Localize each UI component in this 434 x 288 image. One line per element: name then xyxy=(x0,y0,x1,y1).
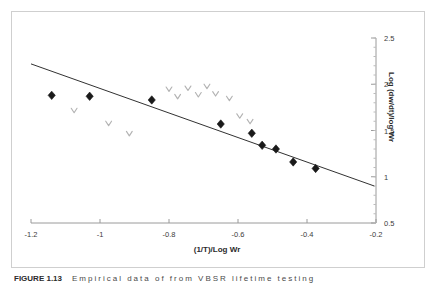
chart-frame xyxy=(11,11,425,268)
y-axis-title: Log (dw/dt)/log Wr xyxy=(387,72,396,192)
y-tick-label: 2.5 xyxy=(384,34,394,43)
x-tick-label: -0.6 xyxy=(232,230,245,239)
x-tick-label: -0.2 xyxy=(370,230,383,239)
x-axis-title: (1/T)/Log Wr xyxy=(0,245,434,254)
x-tick-label: -0.4 xyxy=(301,230,314,239)
x-tick-label: -0.8 xyxy=(163,230,176,239)
x-tick-label: -1 xyxy=(97,230,104,239)
figure-caption-text: Empirical data of from VBSR lifetime tes… xyxy=(72,274,315,283)
figure-root: -1.2-1-0.8-0.6-0.4-0.2 0.511.522.5 (1/T)… xyxy=(0,0,434,288)
figure-caption-number: FIGURE 1.13 xyxy=(14,274,62,283)
x-tick-label: -1.2 xyxy=(25,230,38,239)
y-tick-label: 0.5 xyxy=(384,219,394,228)
figure-caption: FIGURE 1.13Empirical data of from VBSR l… xyxy=(14,274,424,283)
